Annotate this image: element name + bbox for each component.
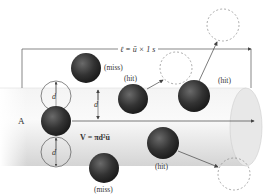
volume-formula: V = πd²ū [80,133,110,142]
molecule-hit-left [118,84,148,114]
svg-text:(miss): (miss) [104,63,123,72]
svg-text:(hit): (hit) [218,76,231,85]
molecule-miss-top [71,53,101,83]
area-label: A [18,116,25,126]
length-formula: ℓ = ū × 1 s [120,45,155,54]
cylinder-end-face [230,88,262,166]
svg-text:(hit): (hit) [124,74,137,83]
collision-cylinder-diagram: ℓ = ū × 1 s d d d A V = πd²ū (miss) (hit… [0,0,269,195]
molecule-miss-bottom [89,153,119,183]
svg-text:(miss): (miss) [94,185,113,194]
molecule-hit-bottom [147,127,179,159]
molecule-hit-right [178,80,210,112]
dashed-scatter-left [160,52,192,84]
dashed-scatter-top [207,9,239,41]
central-molecule [41,106,71,136]
svg-text:(hit): (hit) [155,162,168,171]
